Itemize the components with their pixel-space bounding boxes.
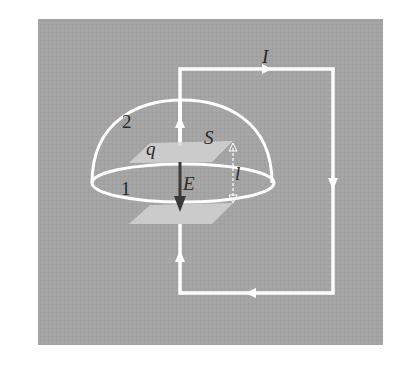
field-label: E xyxy=(182,173,195,194)
diagram-canvas: I 2 1 q S E l xyxy=(0,0,416,373)
capacitor-displacement-current-diagram: I 2 1 q S E l xyxy=(0,0,416,373)
surface-2-label: 2 xyxy=(122,111,132,132)
area-label: S xyxy=(204,127,214,148)
charge-label: q xyxy=(146,138,156,159)
surface-1-label: 1 xyxy=(121,178,131,199)
separation-label: l xyxy=(235,163,240,184)
